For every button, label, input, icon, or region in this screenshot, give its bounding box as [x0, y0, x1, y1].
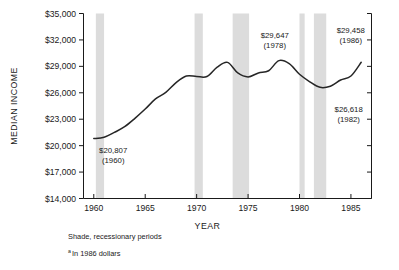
annotation-year-1986: (1986)	[339, 36, 362, 45]
annotation-year-1982: (1982)	[337, 115, 360, 124]
recession-shade-band-1	[195, 14, 203, 199]
median-income-line-chart: $14,000$17,000$20,000$23,000$26,000$29,0…	[0, 0, 399, 270]
x-axis-title: YEAR	[195, 221, 221, 231]
x-axis-tick-label-1: 1965	[136, 203, 155, 213]
x-axis-tick-label-3: 1975	[239, 203, 258, 213]
x-axis-tick-label-2: 1970	[187, 203, 206, 213]
annotation-value-1978: $29,647	[261, 31, 289, 40]
y-axis-tick-label-2: $20,000	[45, 141, 76, 151]
annotation-year-1978: (1978)	[264, 41, 287, 50]
recession-shade-band-2	[233, 14, 249, 199]
annotation-value-1982: $26,618	[335, 105, 363, 114]
value-annotation-1986: $29,458(1986)	[337, 26, 365, 45]
value-annotation-1982: $26,618(1982)	[335, 105, 363, 124]
annotation-value-1986: $29,458	[337, 26, 365, 35]
value-annotation-1960: $20,807(1960)	[99, 146, 127, 165]
y-axis-tick-label-4: $26,000	[45, 88, 76, 98]
y-axis-tick-label-1: $17,000	[45, 167, 76, 177]
chart-container: $14,000$17,000$20,000$23,000$26,000$29,0…	[0, 0, 399, 270]
x-axis-tick-label-4: 1980	[290, 203, 309, 213]
y-axis-tick-label-3: $23,000	[45, 114, 76, 124]
y-axis-title: MEDIAN INCOME	[9, 67, 19, 145]
y-axis-tick-label-0: $14,000	[45, 194, 76, 204]
annotation-year-1960: (1960)	[102, 156, 125, 165]
annotation-value-1960: $20,807	[99, 146, 127, 155]
footnote-shade-note: Shade, recessionary periods	[68, 232, 162, 241]
x-axis-tick-label-0: 1960	[84, 203, 103, 213]
y-axis-tick-label-7: $35,000	[45, 9, 76, 19]
value-annotation-1978: $29,647(1978)	[261, 31, 289, 50]
footnote-dollars-note: In 1986 dollars	[72, 249, 121, 258]
recession-shade-band-0	[96, 14, 104, 199]
recession-shade-band-3	[300, 14, 305, 199]
y-axis-tick-label-6: $32,000	[45, 35, 76, 45]
y-axis-tick-label-5: $29,000	[45, 61, 76, 71]
x-axis-tick-label-5: 1985	[341, 203, 360, 213]
recession-shade-band-4	[314, 14, 326, 199]
footnote-superscript-marker: a	[68, 248, 71, 254]
